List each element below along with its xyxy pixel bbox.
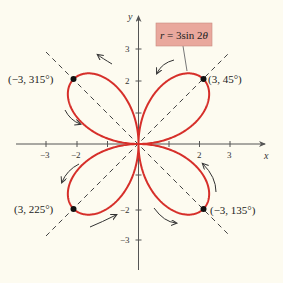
point-3-45 — [201, 76, 207, 82]
equation-text: r = 3sin 2θ — [160, 29, 209, 41]
y-tick-label: −3 — [120, 235, 130, 245]
arrow-icon — [98, 55, 112, 64]
y-tick-label: 2 — [125, 76, 130, 86]
x-tick-label: 3 — [227, 150, 232, 160]
y-tick-label: 3 — [125, 44, 130, 54]
point-label: (3, 225°) — [14, 203, 54, 216]
point-label: (−3, 315°) — [8, 73, 54, 86]
polar-rose-diagram: x y −3 −2 2 3 3 2 −2 −3 — [0, 0, 283, 283]
y-tick-label: −2 — [120, 205, 130, 215]
arrow-icon — [90, 215, 116, 227]
x-tick-label: 2 — [197, 150, 202, 160]
x-axis-label: x — [263, 150, 269, 161]
y-axis-label: y — [127, 11, 133, 22]
point-neg3-135 — [201, 206, 207, 212]
callout-pointer — [183, 46, 187, 71]
point-label: (3, 45°) — [208, 73, 242, 86]
point-neg3-315 — [71, 76, 77, 82]
point-label: (−3, 135°) — [210, 204, 256, 217]
x-tick-label: −2 — [71, 150, 81, 160]
arrow-icon — [157, 60, 174, 73]
x-tick-label: −3 — [40, 150, 50, 160]
axes: x y — [16, 11, 269, 270]
point-3-225 — [71, 206, 77, 212]
